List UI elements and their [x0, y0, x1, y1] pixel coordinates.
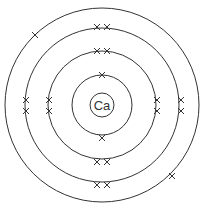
nucleus-symbol: Ca [94, 98, 111, 113]
atom-diagram: Ca [0, 0, 203, 210]
